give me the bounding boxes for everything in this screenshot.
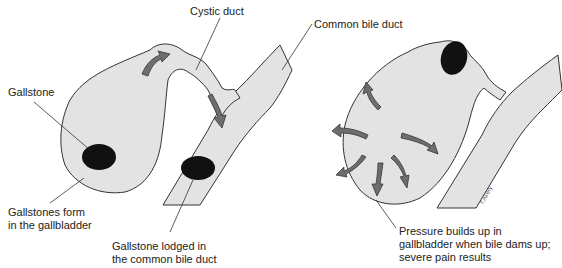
leader-cystic-duct (196, 18, 220, 70)
label-pressure-1: Pressure builds up in (399, 225, 502, 238)
label-lodged-2: the common bile duct (112, 253, 217, 266)
label-cystic-duct: Cystic duct (190, 5, 244, 18)
label-common-bile-duct: Common bile duct (314, 18, 403, 31)
label-pressure-2: gallbladder when bile dams up; (399, 238, 551, 251)
label-gallstone: Gallstone (8, 86, 54, 99)
label-pressure-3: severe pain results (399, 251, 491, 264)
right-panel: T.Avery (332, 38, 562, 228)
gallstone-lodged (181, 156, 215, 180)
leader-gallstones-form (50, 178, 84, 203)
leader-common-bile-duct (282, 24, 312, 70)
label-gallstones-form-1: Gallstones form (8, 206, 85, 219)
label-gallstones-form-2: in the gallbladder (8, 219, 92, 232)
left-panel (34, 18, 312, 232)
label-lodged-1: Gallstone lodged in (112, 240, 206, 253)
